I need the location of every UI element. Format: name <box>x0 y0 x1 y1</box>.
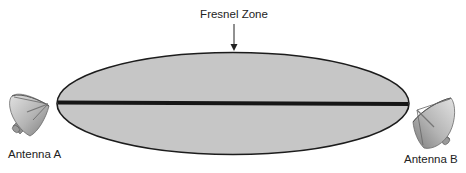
fresnel-zone-label: Fresnel Zone <box>200 8 268 20</box>
antenna-b-dish-icon <box>413 98 455 148</box>
fresnel-zone-diagram: Antenna A Antenna B Fresnel Zone <box>0 0 466 173</box>
antenna-a-dish-icon <box>10 94 49 136</box>
antenna-a-label: Antenna A <box>8 148 61 160</box>
fresnel-zone-arrow-icon <box>231 24 238 51</box>
antenna-b-label: Antenna B <box>404 153 458 165</box>
line-of-sight <box>58 103 408 105</box>
